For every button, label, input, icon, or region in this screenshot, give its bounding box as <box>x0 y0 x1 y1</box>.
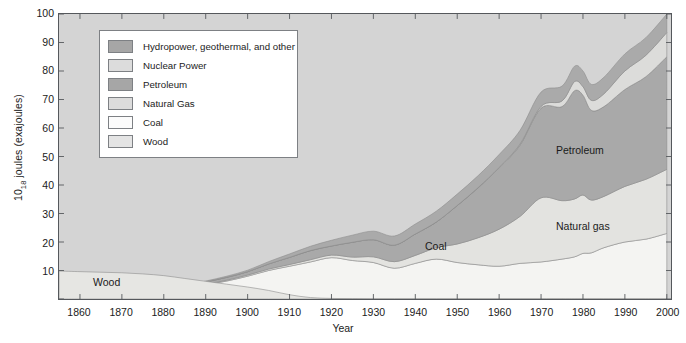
legend-item-petroleum: Petroleum <box>108 75 289 94</box>
x-tick-1890: 1890 <box>183 306 227 318</box>
legend-label: Coal <box>143 117 163 128</box>
x-tick-1960: 1960 <box>478 306 522 318</box>
x-tick-1880: 1880 <box>141 306 185 318</box>
y-tick-30: 30 <box>28 209 54 219</box>
legend-label: Natural Gas <box>143 98 195 109</box>
x-tick-1870: 1870 <box>99 306 143 318</box>
chart-legend: Hydropower, geothermal, and otherNuclear… <box>99 30 298 158</box>
x-axis-label: Year <box>0 322 686 334</box>
x-tick-2000: 2000 <box>646 306 686 318</box>
x-tick-1860: 1860 <box>57 306 101 318</box>
legend-swatch-icon <box>108 135 133 148</box>
legend-label: Nuclear Power <box>143 60 207 71</box>
y-tick-40: 40 <box>28 180 54 190</box>
y-tick-80: 80 <box>28 65 54 75</box>
annotation-natural-gas: Natural gas <box>556 220 610 232</box>
y-tick-60: 60 <box>28 123 54 133</box>
legend-swatch-icon <box>108 40 133 53</box>
energy-consumption-area-chart: 1018 joules (exajoules) 1020304050607080… <box>0 0 686 343</box>
legend-label: Wood <box>143 136 168 147</box>
y-tick-50: 50 <box>28 152 54 162</box>
y-tick-90: 90 <box>28 37 54 47</box>
legend-swatch-icon <box>108 78 133 91</box>
y-tick-70: 70 <box>28 94 54 104</box>
legend-label: Hydropower, geothermal, and other <box>143 41 295 52</box>
annotation-petroleum: Petroleum <box>556 144 604 156</box>
legend-swatch-icon <box>108 97 133 110</box>
x-tick-1980: 1980 <box>562 306 606 318</box>
annotation-wood: Wood <box>93 276 120 288</box>
x-tick-1950: 1950 <box>436 306 480 318</box>
x-tick-1970: 1970 <box>520 306 564 318</box>
legend-label: Petroleum <box>143 79 187 90</box>
x-tick-1930: 1930 <box>351 306 395 318</box>
legend-swatch-icon <box>108 59 133 72</box>
legend-item-coal: Coal <box>108 113 289 132</box>
annotation-coal: Coal <box>425 240 447 252</box>
x-axis-tick-labels: 1860187018801890190019101920193019401950… <box>0 306 686 322</box>
y-tick-20: 20 <box>28 238 54 248</box>
x-tick-1940: 1940 <box>393 306 437 318</box>
legend-swatch-icon <box>108 116 133 129</box>
legend-item-nuclear-power: Nuclear Power <box>108 56 289 75</box>
y-axis-tick-labels: 102030405060708090100 <box>22 0 54 343</box>
x-tick-1900: 1900 <box>225 306 269 318</box>
x-tick-1990: 1990 <box>604 306 648 318</box>
legend-item-wood: Wood <box>108 132 289 151</box>
y-tick-10: 10 <box>28 266 54 276</box>
legend-item-natural-gas: Natural Gas <box>108 94 289 113</box>
legend-item-hydropower-geothermal-and-other: Hydropower, geothermal, and other <box>108 37 289 56</box>
x-tick-1920: 1920 <box>309 306 353 318</box>
y-tick-100: 100 <box>28 8 54 18</box>
y-axis-label-container: 1018 joules (exajoules) <box>0 0 24 300</box>
x-tick-1910: 1910 <box>267 306 311 318</box>
